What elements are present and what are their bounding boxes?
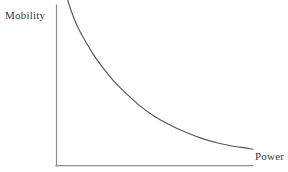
chart-plot-area [0, 0, 288, 172]
data-curve-mobility-power [67, 0, 253, 149]
x-axis-label: Power [255, 150, 284, 162]
y-axis-label: Mobility [5, 9, 45, 21]
chart-figure: Mobility Power [0, 0, 288, 172]
